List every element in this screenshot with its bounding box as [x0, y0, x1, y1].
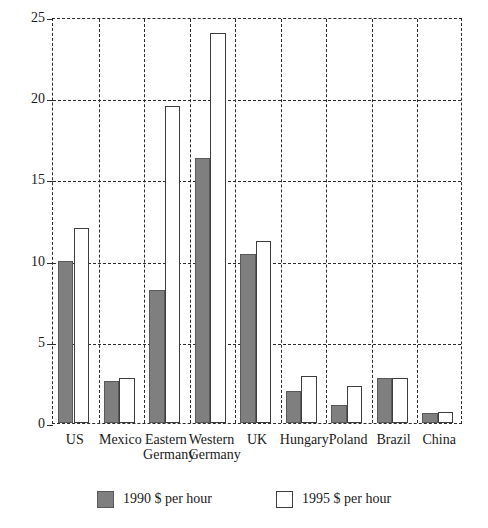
y-tick-label: 5: [5, 336, 45, 350]
bar: [301, 376, 316, 423]
outline-white-swatch: [276, 491, 293, 508]
x-tick-label: US: [52, 432, 98, 447]
y-tick-label: 10: [5, 255, 45, 269]
x-tick-label: Poland: [325, 432, 371, 447]
bar: [119, 378, 134, 423]
y-tick-label: 15: [5, 173, 45, 187]
x-tick-label: Brazil: [371, 432, 417, 447]
bar: [195, 158, 210, 423]
bar: [392, 378, 407, 423]
bar-group: [417, 19, 463, 423]
bar: [377, 378, 392, 423]
bar: [104, 381, 119, 423]
bar-group: [372, 19, 418, 423]
legend-label: 1995 $ per hour: [302, 492, 391, 506]
plot-area: [52, 18, 462, 424]
bar: [74, 228, 89, 423]
bar-group: [190, 19, 236, 423]
bar-group: [235, 19, 281, 423]
legend-label: 1990 $ per hour: [123, 492, 212, 506]
x-tick-label: China: [416, 432, 462, 447]
x-tick-label: Mexico: [98, 432, 144, 447]
x-tick-label: UK: [234, 432, 280, 447]
bar: [331, 405, 346, 423]
bar: [240, 254, 255, 423]
bar: [347, 386, 362, 423]
y-tick-label: 0: [5, 417, 45, 431]
legend-item: 1990 $ per hour: [97, 491, 212, 508]
filled-gray-swatch: [97, 491, 114, 508]
bar: [256, 241, 271, 423]
bar-group: [326, 19, 372, 423]
bar: [149, 290, 164, 423]
y-tick-label: 25: [5, 11, 45, 25]
x-tick-label: WesternGermany: [189, 432, 235, 462]
bar: [165, 106, 180, 423]
x-tick-label: Hungary: [280, 432, 326, 447]
bar: [210, 33, 225, 423]
x-tick-label: EasternGermany: [143, 432, 189, 462]
bar: [438, 412, 453, 423]
y-tick-mark: [47, 425, 53, 426]
bar-chart: 0510152025 USMexicoEasternGermanyWestern…: [0, 0, 488, 528]
legend-item: 1995 $ per hour: [276, 491, 391, 508]
bar-group: [53, 19, 99, 423]
y-tick-label: 20: [5, 92, 45, 106]
bar: [286, 391, 301, 423]
bar-group: [144, 19, 190, 423]
bar-group: [99, 19, 145, 423]
bar: [422, 413, 437, 423]
chart-legend: 1990 $ per hour1995 $ per hour: [0, 487, 488, 511]
bar-group: [281, 19, 327, 423]
bar: [58, 261, 73, 423]
